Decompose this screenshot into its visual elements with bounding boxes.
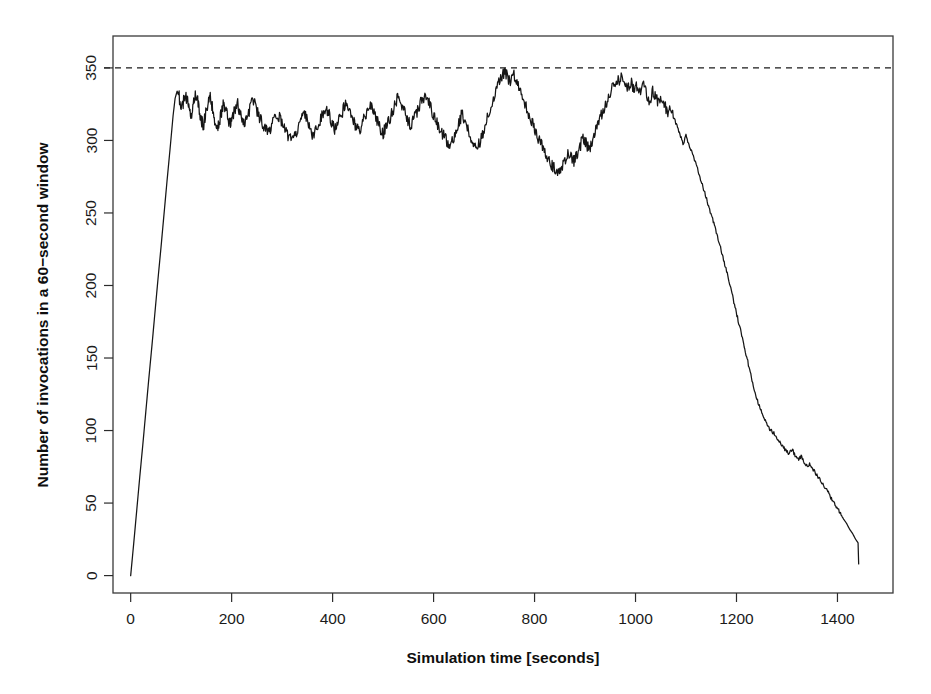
x-tick-label: 1200 [719,610,754,627]
y-axis-title: Number of invocations in a 60−second win… [34,142,51,488]
line-chart-canvas: 050100150200250300350 020040060080010001… [0,0,931,694]
series-invocations-line [131,68,859,575]
y-tick-label: 50 [83,494,100,512]
x-tick-label: 200 [219,610,245,627]
x-tick-label: 1000 [618,610,653,627]
y-axis-ticks: 050100150200250300350 [83,55,114,580]
y-tick-label: 200 [83,272,100,298]
y-tick-label: 100 [83,417,100,443]
y-tick-label: 0 [83,571,100,580]
x-tick-label: 0 [126,610,135,627]
x-tick-label: 800 [522,610,548,627]
y-tick-label: 350 [83,55,100,81]
y-tick-label: 250 [83,200,100,226]
x-axis-ticks: 0200400600800100012001400 [126,593,855,627]
x-tick-label: 600 [421,610,447,627]
y-tick-label: 300 [83,127,100,153]
x-tick-label: 400 [320,610,346,627]
x-axis-title: Simulation time [seconds] [407,649,600,666]
chart-figure: 050100150200250300350 020040060080010001… [0,0,931,694]
x-tick-label: 1400 [820,610,855,627]
y-tick-label: 150 [83,345,100,371]
